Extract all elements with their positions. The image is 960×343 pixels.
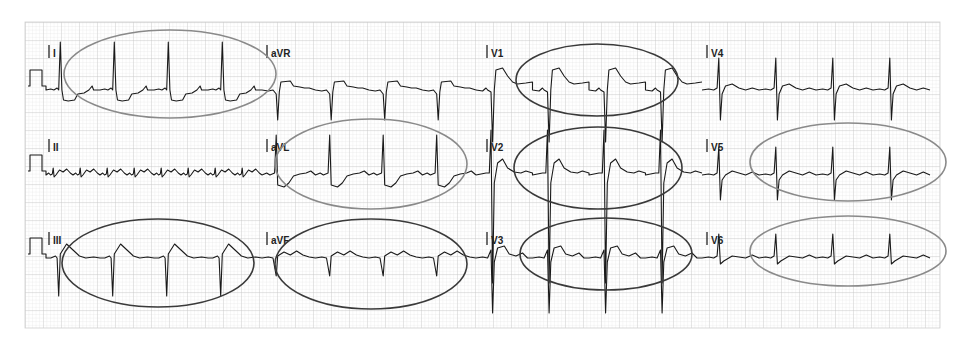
lead-label-v3: V3: [491, 235, 504, 246]
lead-label-ii: II: [53, 142, 59, 153]
lead-label-iii: III: [53, 235, 62, 246]
lead-label-avl: aVL: [271, 142, 289, 153]
lead-label-avr: aVR: [271, 48, 291, 59]
lead-label-v4: V4: [711, 48, 724, 59]
ecg-figure: IaVRV1V4IIaVLV2V5IIIaVFV3V6: [0, 0, 960, 343]
lead-label-avf: aVF: [271, 235, 289, 246]
lead-label-i: I: [53, 48, 56, 59]
lead-label-v5: V5: [711, 142, 724, 153]
lead-label-v2: V2: [491, 142, 504, 153]
lead-label-v1: V1: [491, 48, 504, 59]
lead-label-v6: V6: [711, 235, 724, 246]
